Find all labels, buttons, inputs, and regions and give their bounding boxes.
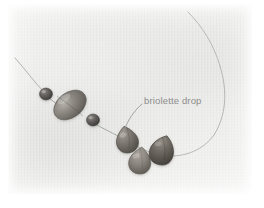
annotated-photo-figure: briolette drop (0, 0, 264, 208)
annotation-label-briolette-drop: briolette drop (144, 95, 202, 106)
annotation-leader-line (124, 104, 142, 131)
round-spacer-bead-right (87, 114, 100, 126)
necklace-illustration-layer (0, 0, 264, 208)
large-oval-focal-bead (48, 84, 92, 126)
round-spacer-bead-left (40, 88, 53, 100)
briolette-drop-3 (146, 132, 178, 168)
